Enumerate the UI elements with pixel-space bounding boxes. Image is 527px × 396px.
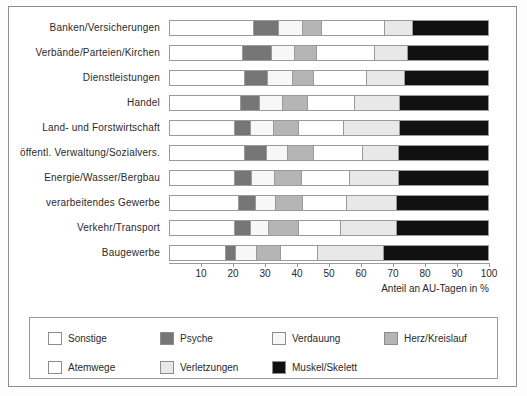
bar-segment-herz-kreislauf[interactable] (303, 21, 322, 35)
bar-segment-muskel-skelett[interactable] (405, 71, 488, 85)
bar-segment-psyche[interactable] (245, 146, 267, 160)
legend-item-atemwege[interactable]: Atemwege (48, 361, 160, 374)
bar-segment-atemwege[interactable] (314, 146, 363, 160)
bar-segment-verletzungen[interactable] (347, 196, 397, 210)
bar-segment-verdauung[interactable] (236, 246, 257, 260)
bar-segment-verdauung[interactable] (267, 146, 288, 160)
bar-segment-sonstige[interactable] (170, 121, 235, 135)
bar-segment-sonstige[interactable] (170, 46, 243, 60)
bar-track (169, 170, 489, 186)
bar-segment-psyche[interactable] (254, 21, 279, 35)
bar-segment-atemwege[interactable] (299, 221, 341, 235)
bar-segment-sonstige[interactable] (170, 71, 245, 85)
bar-segment-herz-kreislauf[interactable] (283, 96, 307, 110)
bar-segment-muskel-skelett[interactable] (384, 246, 488, 260)
bar-segment-verdauung[interactable] (251, 221, 269, 235)
bar-segment-atemwege[interactable] (299, 121, 344, 135)
bar-segment-verdauung[interactable] (279, 21, 302, 35)
category-label: Energie/Wasser/Bergbau (9, 172, 169, 183)
bar-segment-verletzungen[interactable] (344, 121, 400, 135)
category-label: Land- und Forstwirtschaft (9, 122, 169, 133)
bar-segment-atemwege[interactable] (303, 196, 347, 210)
bar-segment-herz-kreislauf[interactable] (293, 71, 314, 85)
bar-segment-psyche[interactable] (226, 246, 237, 260)
bar-segment-sonstige[interactable] (170, 146, 245, 160)
bar-segment-atemwege[interactable] (308, 96, 355, 110)
bar-segment-verletzungen[interactable] (375, 46, 408, 60)
bar-segment-verletzungen[interactable] (363, 146, 399, 160)
bar-segment-muskel-skelett[interactable] (408, 46, 488, 60)
bar-segment-verletzungen[interactable] (341, 221, 397, 235)
bar-segment-muskel-skelett[interactable] (397, 221, 488, 235)
screenshot-root: Banken/VersicherungenVerbände/Parteien/K… (0, 0, 527, 396)
bar-segment-sonstige[interactable] (170, 171, 235, 185)
legend-item-sonstige[interactable]: Sonstige (48, 332, 160, 345)
bar-segment-herz-kreislauf[interactable] (288, 146, 313, 160)
bar-segment-muskel-skelett[interactable] (400, 96, 488, 110)
legend-item-verletzungen[interactable]: Verletzungen (160, 361, 272, 374)
stacked-bar[interactable] (169, 95, 489, 111)
category-label: Verbände/Parteien/Kirchen (9, 47, 169, 58)
bar-segment-atemwege[interactable] (281, 246, 318, 260)
bar-segment-verdauung[interactable] (272, 46, 295, 60)
bar-segment-verdauung[interactable] (251, 121, 274, 135)
bar-segment-verletzungen[interactable] (385, 21, 413, 35)
bar-segment-herz-kreislauf[interactable] (269, 221, 299, 235)
bar-segment-verdauung[interactable] (252, 171, 274, 185)
legend-item-verdauung[interactable]: Verdauung (272, 332, 384, 345)
stacked-bar[interactable] (169, 20, 489, 36)
bar-segment-verletzungen[interactable] (318, 246, 384, 260)
bar-segment-sonstige[interactable] (170, 21, 254, 35)
stacked-bar[interactable] (169, 220, 489, 236)
legend-label: Sonstige (68, 333, 107, 344)
bar-track (169, 20, 489, 36)
legend-label: Psyche (180, 333, 213, 344)
bar-segment-verletzungen[interactable] (355, 96, 400, 110)
stacked-bar[interactable] (169, 195, 489, 211)
legend-item-psyche[interactable]: Psyche (160, 332, 272, 345)
bar-segment-muskel-skelett[interactable] (399, 171, 488, 185)
bar-segment-psyche[interactable] (235, 221, 251, 235)
bar-segment-herz-kreislauf[interactable] (274, 121, 299, 135)
bar-segment-psyche[interactable] (235, 121, 251, 135)
bar-segment-herz-kreislauf[interactable] (276, 196, 303, 210)
stacked-bar[interactable] (169, 145, 489, 161)
bar-segment-psyche[interactable] (235, 171, 253, 185)
x-axis-tick (233, 263, 234, 267)
legend-item-herz-kreislauf[interactable]: Herz/Kreislauf (384, 332, 496, 345)
bar-segment-verdauung[interactable] (268, 71, 293, 85)
bar-segment-atemwege[interactable] (314, 71, 367, 85)
bar-segment-herz-kreislauf[interactable] (257, 246, 281, 260)
bar-segment-sonstige[interactable] (170, 196, 239, 210)
bar-segment-muskel-skelett[interactable] (399, 146, 488, 160)
stacked-bar[interactable] (169, 45, 489, 61)
stacked-bar[interactable] (169, 245, 489, 261)
stacked-bar[interactable] (169, 70, 489, 86)
bar-segment-atemwege[interactable] (317, 46, 375, 60)
legend-item-muskel-skelett[interactable]: Muskel/Skelett (272, 361, 384, 374)
x-axis-tick-label: 20 (227, 268, 238, 279)
bar-segment-psyche[interactable] (241, 96, 260, 110)
bar-segment-psyche[interactable] (245, 71, 268, 85)
bar-segment-muskel-skelett[interactable] (397, 196, 488, 210)
stacked-bar[interactable] (169, 120, 489, 136)
bar-segment-verdauung[interactable] (260, 96, 284, 110)
bar-segment-atemwege[interactable] (302, 171, 349, 185)
bar-segment-muskel-skelett[interactable] (413, 21, 488, 35)
bar-segment-atemwege[interactable] (322, 21, 384, 35)
bar-segment-muskel-skelett[interactable] (400, 121, 488, 135)
bar-segment-sonstige[interactable] (170, 246, 226, 260)
x-axis-tick (201, 263, 202, 267)
bar-segment-psyche[interactable] (239, 196, 256, 210)
bar-segment-psyche[interactable] (243, 46, 271, 60)
stacked-bar[interactable] (169, 170, 489, 186)
bar-segment-sonstige[interactable] (170, 96, 241, 110)
bar-segment-herz-kreislauf[interactable] (295, 46, 317, 60)
bar-segment-verdauung[interactable] (256, 196, 276, 210)
bar-segment-verletzungen[interactable] (350, 171, 399, 185)
bar-segment-sonstige[interactable] (170, 221, 235, 235)
x-axis-tick (265, 263, 266, 267)
bar-segment-herz-kreislauf[interactable] (275, 171, 303, 185)
bar-track (169, 195, 489, 211)
bar-segment-verletzungen[interactable] (367, 71, 405, 85)
